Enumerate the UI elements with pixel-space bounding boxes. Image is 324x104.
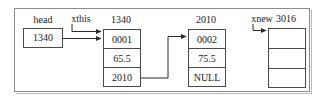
node-1340-address-label: 1340 xyxy=(101,14,141,26)
node-2010: 0002 75.5 NULL xyxy=(188,29,226,87)
head-variable-box: 1340 xyxy=(23,28,63,48)
node-1340-cell-data: 0001 xyxy=(104,30,140,49)
node-2010-cell-value: 75.5 xyxy=(189,49,225,68)
node-3016-address-label: 3016 xyxy=(266,13,306,25)
node-1340-cell-next: 2010 xyxy=(104,68,140,86)
node-1340-cell-value: 65.5 xyxy=(104,49,140,68)
node-3016 xyxy=(268,28,306,88)
node-3016-cell-data xyxy=(269,29,305,49)
node-2010-address-label: 2010 xyxy=(186,14,226,26)
node-1340: 0001 65.5 2010 xyxy=(103,29,141,87)
node-3016-cell-next xyxy=(269,69,305,87)
xthis-pointer-label: xthis xyxy=(61,13,101,25)
node-3016-cell-value xyxy=(269,49,305,69)
linked-list-diagram: head xthis 1340 2010 xnew 3016 1340 0001… xyxy=(0,0,324,104)
node-2010-cell-next: NULL xyxy=(189,68,225,86)
head-label: head xyxy=(23,14,63,26)
node-2010-cell-data: 0002 xyxy=(189,30,225,49)
